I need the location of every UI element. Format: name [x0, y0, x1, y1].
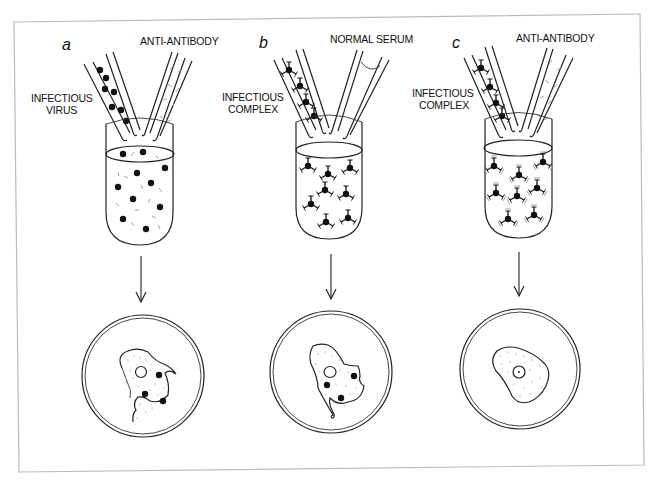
panel-c: c ANTI-ANTIBODY INFECTIOUS COMPLEX	[412, 32, 595, 429]
infectious-complex-label-b-line1: INFECTIOUS	[222, 91, 284, 103]
anti-antibody-label-c: ANTI-ANTIBODY	[516, 32, 595, 44]
arrow-down-c	[514, 252, 524, 296]
anti-antibody-label-a: ANTI-ANTIBODY	[140, 35, 219, 47]
test-tube-c	[484, 113, 553, 239]
infectious-complex-label-c-line1: INFECTIOUS	[412, 87, 474, 99]
anti-antibody-pipette-c	[519, 48, 573, 137]
uninfected-cell-c	[493, 347, 549, 403]
infectious-virus-label-line1: INFECTIOUS	[31, 92, 93, 104]
infectious-virus-label-line2: VIRUS	[46, 104, 77, 116]
anti-antibody-pipette-a	[142, 52, 192, 141]
culture-dish-a	[82, 315, 204, 437]
arrow-down-a	[136, 256, 146, 302]
infectious-complex-label-c-line2: COMPLEX	[419, 99, 469, 111]
normal-serum-label: NORMAL SERUM	[330, 33, 413, 45]
culture-dish-c	[460, 309, 580, 429]
test-tube-a	[106, 118, 174, 245]
panel-b: b NORMAL SERUM INFECTIOUS COMPLEX	[222, 33, 413, 433]
panel-a: a ANTI-ANTIBODY INFECTIOUS VIRUS	[31, 35, 219, 437]
panel-letter-a: a	[62, 36, 71, 53]
infectious-complex-label-b-line2: COMPLEX	[228, 103, 278, 115]
arrow-down-b	[326, 254, 336, 299]
panel-letter-b: b	[259, 34, 268, 51]
diagram-canvas: a ANTI-ANTIBODY INFECTIOUS VIRUS	[0, 0, 655, 486]
normal-serum-pipette	[329, 50, 389, 139]
culture-dish-b	[270, 311, 392, 433]
panel-letter-c: c	[452, 34, 460, 51]
infected-cell-b	[310, 344, 364, 418]
figure-frame	[14, 14, 644, 472]
